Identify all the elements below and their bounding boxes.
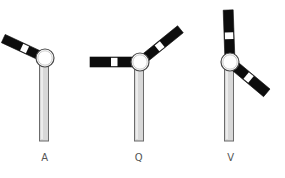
hub-v [221,53,239,71]
hub-q [131,53,149,71]
figure-label-q: Q [127,152,151,163]
post-a [40,58,49,141]
upper-vertical-arm-white-band [225,32,234,39]
post-q [135,62,144,141]
figure-label-a: A [33,152,57,163]
hub-a [36,49,54,67]
post-v [225,62,234,141]
left-horizontal-arm-white-band [111,58,118,66]
figure-label-v: V [219,152,243,163]
